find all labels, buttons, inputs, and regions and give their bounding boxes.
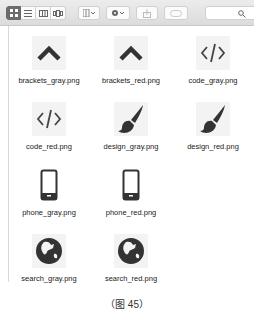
arrange-grid-chevron-icon <box>83 9 95 17</box>
share-icon <box>143 9 151 18</box>
columns-icon <box>39 10 48 17</box>
file-item[interactable]: code_gray.png <box>173 36 253 85</box>
chevron-up-icon <box>32 36 66 70</box>
code-icon <box>196 36 230 70</box>
search-field[interactable] <box>205 6 254 20</box>
cover-flow-view-button[interactable] <box>51 6 66 20</box>
file-item[interactable]: search_red.png <box>91 234 171 283</box>
file-item[interactable]: phone_gray.png <box>9 168 89 217</box>
file-name: brackets_gray.png <box>9 76 89 85</box>
tag-icon <box>170 10 182 17</box>
file-name: design_red.png <box>173 142 253 151</box>
cover-flow-icon <box>53 10 63 17</box>
list-icon <box>24 10 32 17</box>
file-item[interactable]: design_red.png <box>173 102 253 151</box>
action-button[interactable] <box>106 6 130 20</box>
view-mode-segmented-control <box>6 6 66 20</box>
edit-tags-button[interactable] <box>164 6 188 20</box>
file-name: code_red.png <box>9 142 89 151</box>
phone-icon <box>114 168 148 202</box>
file-name: search_red.png <box>91 274 171 283</box>
gear-chevron-icon <box>111 9 125 17</box>
file-name: phone_red.png <box>91 208 171 217</box>
file-icon-grid: brackets_gray.png brackets_red.png code_… <box>8 26 254 282</box>
figure-caption: （图 45） <box>0 296 254 309</box>
finder-toolbar <box>0 0 254 26</box>
globe-icon <box>114 234 148 268</box>
grid-icon <box>10 9 18 17</box>
file-item[interactable]: phone_red.png <box>91 168 171 217</box>
paintbrush-icon <box>196 102 230 136</box>
file-name: design_gray.png <box>91 142 171 151</box>
share-button[interactable] <box>136 6 158 20</box>
column-view-button[interactable] <box>36 6 51 20</box>
chevron-up-icon <box>114 36 148 70</box>
file-item[interactable]: code_red.png <box>9 102 89 151</box>
code-icon <box>32 102 66 136</box>
file-name: code_gray.png <box>173 76 253 85</box>
arrange-button[interactable] <box>78 6 100 20</box>
globe-icon <box>32 234 66 268</box>
search-icon <box>238 10 246 18</box>
paintbrush-icon <box>114 102 148 136</box>
file-item[interactable]: search_gray.png <box>9 234 89 283</box>
list-view-button[interactable] <box>21 6 36 20</box>
file-name: phone_gray.png <box>9 208 89 217</box>
icon-view-button[interactable] <box>6 6 21 20</box>
file-name: brackets_red.png <box>91 76 171 85</box>
phone-icon <box>32 168 66 202</box>
file-item[interactable]: brackets_red.png <box>91 36 171 85</box>
file-item[interactable]: design_gray.png <box>91 102 171 151</box>
file-name: search_gray.png <box>9 274 89 283</box>
file-item[interactable]: brackets_gray.png <box>9 36 89 85</box>
